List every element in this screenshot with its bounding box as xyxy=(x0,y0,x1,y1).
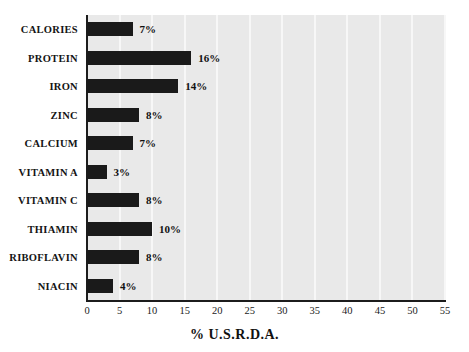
bar-value-label: 10% xyxy=(159,223,181,235)
bar xyxy=(87,222,152,236)
category-label: IRON xyxy=(49,81,78,92)
category-label: RIBOFLAVIN xyxy=(9,252,78,263)
bar xyxy=(87,193,139,207)
bar-row: ZINC8% xyxy=(0,102,469,128)
bar-row: NIACIN4% xyxy=(0,273,469,299)
x-tick-label: 5 xyxy=(117,305,122,316)
bar-value-label: 3% xyxy=(114,166,131,178)
bar xyxy=(87,79,178,93)
bar-row: CALCIUM7% xyxy=(0,130,469,156)
bar xyxy=(87,22,133,36)
bar-row: PROTEIN16% xyxy=(0,45,469,71)
bar-value-label: 16% xyxy=(198,52,220,64)
category-label: VITAMIN A xyxy=(19,166,78,177)
x-tick-label: 55 xyxy=(440,305,451,316)
category-label: NIACIN xyxy=(38,280,78,291)
bar xyxy=(87,108,139,122)
bar-value-label: 8% xyxy=(146,194,163,206)
bar xyxy=(87,279,113,293)
x-tick-label: 30 xyxy=(277,305,288,316)
category-label: CALCIUM xyxy=(25,138,78,149)
category-label: THIAMIN xyxy=(27,223,78,234)
category-label: VITAMIN C xyxy=(18,195,78,206)
bar-row: VITAMIN A3% xyxy=(0,159,469,185)
bar xyxy=(87,51,191,65)
bar-row: CALORIES7% xyxy=(0,16,469,42)
x-tick-label: 45 xyxy=(375,305,386,316)
x-tick-label: 50 xyxy=(407,305,418,316)
x-axis-line xyxy=(86,300,446,302)
category-label: CALORIES xyxy=(21,24,78,35)
bar-value-label: 7% xyxy=(140,23,157,35)
x-tick-label: 0 xyxy=(84,305,89,316)
bar xyxy=(87,165,107,179)
bar-value-label: 8% xyxy=(146,109,163,121)
category-label: ZINC xyxy=(51,109,78,120)
x-tick-label: 40 xyxy=(342,305,353,316)
bar-value-label: 14% xyxy=(185,80,207,92)
bar-value-label: 7% xyxy=(140,137,157,149)
bar-row: THIAMIN10% xyxy=(0,216,469,242)
x-axis-title: % U.S.R.D.A. xyxy=(0,327,469,343)
x-tick-label: 15 xyxy=(179,305,190,316)
bar xyxy=(87,136,133,150)
x-tick-label: 10 xyxy=(147,305,158,316)
x-tick-label: 25 xyxy=(244,305,255,316)
category-label: PROTEIN xyxy=(28,52,78,63)
bar-chart-figure: CALORIES7%PROTEIN16%IRON14%ZINC8%CALCIUM… xyxy=(0,0,469,352)
bar-row: RIBOFLAVIN8% xyxy=(0,244,469,270)
x-tick-label: 20 xyxy=(212,305,223,316)
bar xyxy=(87,250,139,264)
bar-value-label: 8% xyxy=(146,251,163,263)
bar-row: IRON14% xyxy=(0,73,469,99)
bar-value-label: 4% xyxy=(120,280,137,292)
x-tick-label: 35 xyxy=(310,305,321,316)
bar-row: VITAMIN C8% xyxy=(0,187,469,213)
